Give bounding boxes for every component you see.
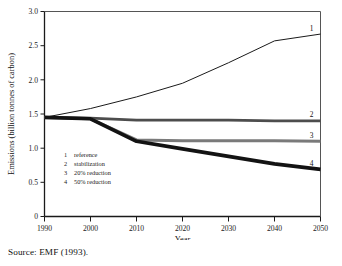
legend-label: reference — [74, 151, 98, 158]
y-tick-label: 2.5 — [29, 41, 39, 50]
data-series-group — [45, 34, 321, 169]
curve-end-labels: 1234 — [310, 24, 314, 168]
y-tick-label: 0.5 — [29, 178, 39, 187]
figure-container: 3.0 2.5 2.0 1.5 1.0 0.5 0 1990 2000 2010… — [0, 0, 342, 266]
series-line-1 — [45, 34, 321, 117]
legend-label: 20% reduction — [74, 169, 112, 176]
x-axis-ticks — [45, 217, 321, 222]
x-tick-label: 2040 — [267, 224, 282, 233]
curve-end-label-3: 3 — [310, 131, 314, 140]
legend-number: 1 — [64, 151, 67, 158]
x-tick-label: 2020 — [175, 224, 190, 233]
legend-label: stabilization — [74, 160, 106, 167]
legend-label: 50% reduction — [74, 178, 112, 185]
legend-number: 4 — [64, 178, 68, 185]
y-tick-label: 3.0 — [29, 7, 39, 16]
y-axis-tick-labels: 3.0 2.5 2.0 1.5 1.0 0.5 0 — [29, 7, 39, 221]
x-tick-label: 1990 — [37, 224, 52, 233]
curve-end-label-4: 4 — [310, 159, 314, 168]
y-axis-title: Emissions (billion tonnes of carbon) — [7, 53, 16, 175]
x-tick-label: 2000 — [83, 224, 98, 233]
legend: 1 reference 2 stabilization 3 20% reduct… — [64, 151, 112, 185]
plot-frame — [45, 12, 321, 217]
y-tick-label: 1.0 — [29, 144, 39, 153]
x-tick-label: 2030 — [221, 224, 236, 233]
x-tick-label: 2050 — [313, 224, 328, 233]
legend-number: 2 — [64, 160, 67, 167]
y-tick-label: 2.0 — [29, 76, 39, 85]
x-axis-tick-labels: 1990 2000 2010 2020 2030 2040 2050 — [37, 224, 328, 233]
legend-number: 3 — [64, 169, 67, 176]
curve-end-label-2: 2 — [310, 110, 314, 119]
y-tick-label: 0 — [34, 212, 38, 221]
y-tick-label: 1.5 — [29, 110, 39, 119]
source-caption: Source: EMF (1993). — [8, 247, 88, 257]
x-axis-title: Year — [175, 235, 191, 241]
curve-end-label-1: 1 — [310, 24, 314, 33]
emissions-line-chart: 3.0 2.5 2.0 1.5 1.0 0.5 0 1990 2000 2010… — [0, 0, 342, 240]
x-tick-label: 2010 — [129, 224, 144, 233]
